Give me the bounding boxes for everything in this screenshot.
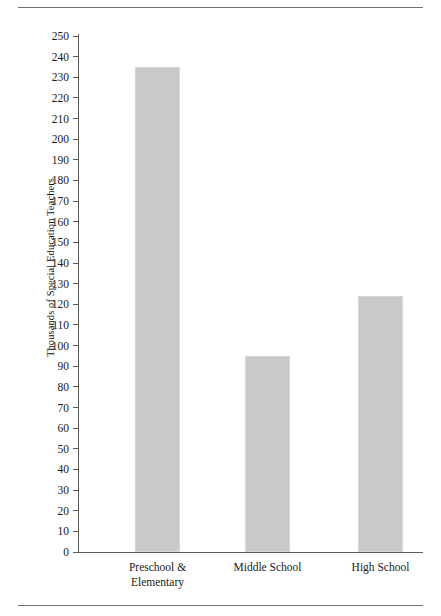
y-tick-label: 40: [58, 461, 70, 477]
x-axis-label: Preschool &Elementary: [98, 560, 218, 590]
y-tick-mark: [73, 77, 78, 78]
y-tick-mark: [73, 139, 78, 140]
y-tick-label: 70: [58, 400, 70, 416]
y-tick-label: 50: [58, 441, 70, 457]
y-tick-label: 150: [52, 234, 69, 250]
y-tick-mark: [73, 407, 78, 408]
y-tick-mark: [73, 386, 78, 387]
y-tick-mark: [73, 510, 78, 511]
y-tick-mark: [73, 490, 78, 491]
y-tick-label: 210: [52, 111, 69, 127]
bar-chart: Thousands of Special Education Teachers …: [0, 0, 441, 616]
bar: [358, 296, 403, 552]
y-tick-label: 250: [52, 28, 69, 44]
y-tick-mark: [73, 469, 78, 470]
y-tick-label: 200: [52, 131, 69, 147]
x-axis-label: Middle School: [208, 560, 328, 575]
y-tick-label: 100: [52, 338, 69, 354]
y-tick-label: 130: [52, 276, 69, 292]
y-tick-mark: [73, 180, 78, 181]
y-tick-mark: [73, 324, 78, 325]
y-tick-label: 110: [52, 317, 69, 333]
y-tick-mark: [73, 56, 78, 57]
y-tick-mark: [73, 201, 78, 202]
figure-page: Thousands of Special Education Teachers …: [0, 0, 441, 616]
y-tick-mark: [73, 263, 78, 264]
y-tick-mark: [73, 366, 78, 367]
y-tick-label: 90: [58, 358, 70, 374]
y-tick-label: 0: [63, 544, 69, 560]
y-tick-label: 140: [52, 255, 69, 271]
y-tick-mark: [73, 283, 78, 284]
x-axis-label: High School: [321, 560, 441, 575]
y-tick-mark: [73, 118, 78, 119]
y-tick-mark: [73, 552, 78, 553]
y-tick-label: 30: [58, 482, 70, 498]
x-axis-line: [78, 552, 423, 553]
y-tick-mark: [73, 97, 78, 98]
x-axis-label-line: High School: [321, 560, 441, 575]
x-axis-label-line: Middle School: [208, 560, 328, 575]
y-tick-mark: [73, 304, 78, 305]
y-tick-label: 180: [52, 172, 69, 188]
y-tick-mark: [73, 428, 78, 429]
y-tick-label: 20: [58, 503, 70, 519]
y-tick-label: 80: [58, 379, 70, 395]
y-tick-mark: [73, 221, 78, 222]
y-tick-mark: [73, 531, 78, 532]
y-tick-label: 240: [52, 49, 69, 65]
y-tick-label: 220: [52, 90, 69, 106]
y-tick-mark: [73, 448, 78, 449]
x-axis-label-line: Elementary: [98, 575, 218, 590]
y-tick-label: 60: [58, 420, 70, 436]
y-axis-line: [78, 34, 79, 553]
y-tick-label: 120: [52, 296, 69, 312]
bar: [245, 356, 290, 552]
y-tick-label: 190: [52, 152, 69, 168]
y-tick-label: 170: [52, 193, 69, 209]
y-tick-mark: [73, 36, 78, 37]
bar: [135, 67, 180, 552]
y-tick-mark: [73, 345, 78, 346]
y-tick-label: 230: [52, 69, 69, 85]
y-tick-mark: [73, 159, 78, 160]
y-tick-mark: [73, 242, 78, 243]
x-axis-label-line: Preschool &: [98, 560, 218, 575]
y-tick-label: 10: [58, 523, 70, 539]
y-tick-label: 160: [52, 214, 69, 230]
